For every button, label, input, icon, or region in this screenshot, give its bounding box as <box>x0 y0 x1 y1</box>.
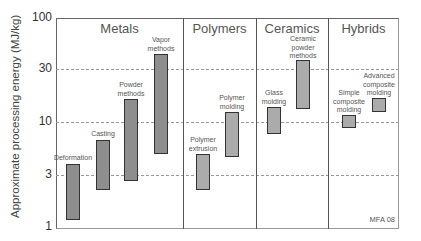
category-hybrids: Hybrids <box>328 21 399 36</box>
label-ceramic-powder-methods: Ceramic powder methods <box>287 35 319 61</box>
label-advanced-composite-molding: Advanced composite molding <box>361 72 397 98</box>
bar-ceramic-powder-methods <box>296 60 310 109</box>
bar-glass-molding <box>267 107 281 134</box>
bar-vapor-methods <box>154 54 168 154</box>
y-tick-1: 1 <box>30 219 52 233</box>
bar-polymer-extrusion <box>196 154 210 190</box>
divider-polymers-ceramics <box>256 18 257 229</box>
y-tick-100: 100 <box>30 10 52 24</box>
label-glass-molding: Glass molding <box>258 89 290 106</box>
label-deformation: Deformation <box>52 154 94 163</box>
bar-powder-methods <box>124 99 138 181</box>
gridline-30 <box>56 69 399 70</box>
label-polymer-molding: Polymer molding <box>216 94 248 111</box>
y-tick-30: 30 <box>30 61 52 75</box>
bar-polymer-molding <box>225 112 239 157</box>
y-axis-label: Approximate processing energy (MJ/kg) <box>9 18 21 218</box>
divider-metals-polymers <box>183 18 184 229</box>
bar-deformation <box>66 164 80 220</box>
label-polymer-extrusion: Polymer extrusion <box>186 136 220 153</box>
bar-advanced-composite-molding <box>372 98 386 112</box>
divider-ceramics-hybrids <box>328 18 329 229</box>
label-vapor-methods: Vapor methods <box>146 36 176 53</box>
category-polymers: Polymers <box>183 21 256 36</box>
category-metals: Metals <box>56 21 183 36</box>
category-ceramics: Ceramics <box>256 21 328 36</box>
label-powder-methods: Powder methods <box>116 81 146 98</box>
bar-casting <box>96 140 110 190</box>
processing-energy-chart: Approximate processing energy (MJ/kg) 10… <box>0 0 421 241</box>
credit-annotation: MFA 08 <box>370 215 395 224</box>
bar-simple-composite-molding <box>342 115 356 128</box>
label-casting: Casting <box>88 130 118 139</box>
y-tick-10: 10 <box>30 114 52 128</box>
y-tick-3: 3 <box>30 167 52 181</box>
